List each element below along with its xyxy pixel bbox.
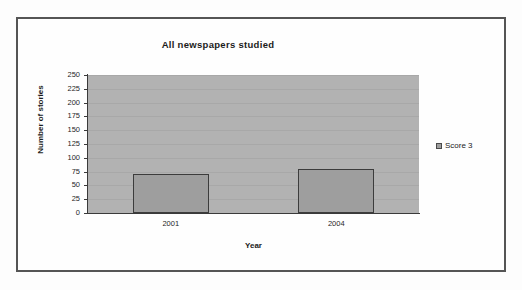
- bar: [298, 169, 374, 213]
- y-tick-mark: [84, 116, 87, 117]
- y-tick-mark: [84, 144, 87, 145]
- y-tick-label: 175: [54, 112, 80, 120]
- gridline: [88, 158, 419, 159]
- y-tick-label: 75: [54, 168, 80, 176]
- bar-chart: All newspapers studied 02550751001251501…: [18, 19, 508, 274]
- x-tick-label: 2001: [141, 219, 201, 228]
- y-tick-mark: [84, 89, 87, 90]
- y-tick-mark: [84, 103, 87, 104]
- bar: [133, 174, 209, 213]
- y-tick-label: 250: [54, 71, 80, 79]
- y-tick-mark: [84, 213, 87, 214]
- chart-title: All newspapers studied: [18, 39, 418, 50]
- gridline: [88, 116, 419, 117]
- y-axis-line: [87, 74, 88, 214]
- screenshot-page: All newspapers studied 02550751001251501…: [0, 0, 522, 290]
- legend-swatch-icon: [436, 143, 442, 149]
- y-tick-label: 200: [54, 99, 80, 107]
- x-axis-line: [87, 213, 420, 214]
- gridline: [88, 103, 419, 104]
- x-tick-label: 2004: [306, 219, 366, 228]
- y-tick-mark: [84, 130, 87, 131]
- legend-entry-label: Score 3: [445, 141, 473, 150]
- document-frame: All newspapers studied 02550751001251501…: [16, 17, 506, 272]
- y-tick-label: 25: [54, 195, 80, 203]
- y-tick-label: 150: [54, 126, 80, 134]
- y-tick-mark: [84, 185, 87, 186]
- gridline: [88, 75, 419, 76]
- plot-area: [88, 75, 419, 213]
- y-tick-mark: [84, 75, 87, 76]
- y-tick-label: 225: [54, 85, 80, 93]
- x-axis-title: Year: [88, 241, 419, 250]
- y-tick-mark: [84, 158, 87, 159]
- chart-legend: Score 3: [436, 141, 473, 150]
- gridline: [88, 144, 419, 145]
- y-tick-label: 50: [54, 181, 80, 189]
- y-tick-mark: [84, 172, 87, 173]
- y-tick-label: 100: [54, 154, 80, 162]
- gridline: [88, 89, 419, 90]
- y-tick-label: 125: [54, 140, 80, 148]
- y-axis-title: Number of stories: [36, 75, 45, 165]
- y-tick-mark: [84, 199, 87, 200]
- y-tick-label: 0: [54, 209, 80, 217]
- gridline: [88, 130, 419, 131]
